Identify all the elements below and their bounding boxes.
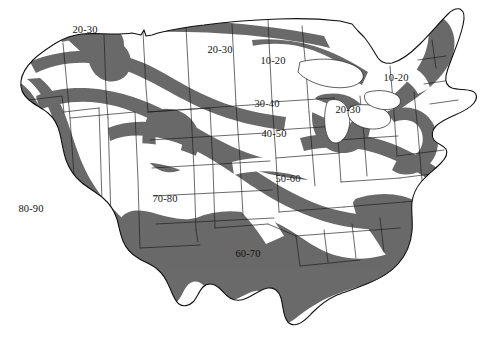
map-graphic (0, 0, 499, 347)
map-landmass-base (0, 0, 499, 347)
us-contour-band-map-figure: 10-2010-2020-3020-3020-3030-4040-5050-60… (0, 0, 499, 347)
